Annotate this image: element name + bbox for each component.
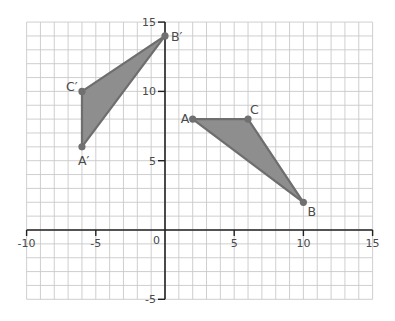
vertex-point (300, 199, 307, 206)
vertex-label: B (307, 204, 316, 219)
tick-labels: -10-551015-5510150 (18, 16, 380, 306)
vertex-label: A′ (78, 153, 90, 168)
y-tick-label: 10 (142, 85, 156, 98)
vertex-label: C (250, 102, 259, 117)
vertex-label: C′ (66, 79, 78, 94)
vertex-point (161, 32, 168, 39)
x-tick-label: -10 (18, 237, 36, 250)
y-tick-label: 15 (142, 16, 156, 29)
x-tick-label: -5 (90, 237, 101, 250)
vertex-label: A (181, 111, 190, 126)
y-tick-label: -5 (145, 293, 156, 306)
vertex-labels: ABCA′B′C′ (66, 29, 316, 219)
origin-label: 0 (153, 234, 160, 247)
vertex-point (189, 116, 196, 123)
vertex-point (78, 88, 85, 95)
x-tick-label: 10 (296, 237, 310, 250)
coordinate-plane: -10-551015-5510150 ABCA′B′C′ (0, 0, 395, 321)
x-tick-label: 15 (366, 237, 380, 250)
y-tick-label: 5 (149, 155, 156, 168)
x-tick-label: 5 (231, 237, 238, 250)
vertex-point (78, 143, 85, 150)
vertex-label: B′ (171, 29, 183, 44)
